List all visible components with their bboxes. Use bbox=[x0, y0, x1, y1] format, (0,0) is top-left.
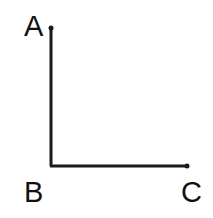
label-a: A bbox=[24, 10, 44, 42]
point-c-dot bbox=[185, 164, 190, 169]
point-a-dot bbox=[49, 26, 54, 31]
label-b: B bbox=[24, 176, 43, 208]
right-angle-diagram: A B C bbox=[0, 0, 213, 218]
label-c: C bbox=[181, 176, 202, 208]
